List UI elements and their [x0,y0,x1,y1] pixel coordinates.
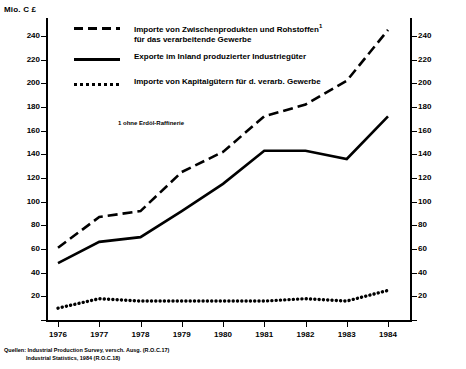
y-axis-label-right-80: 80 [418,221,444,229]
y-axis-label-left-20: 20 [14,292,40,300]
y-axis-tick-right-240 [412,36,417,37]
chart-figure: Mio. C £ 2020404060608080100100120120140… [0,0,466,369]
source-line-2: Industrial Statistics, 1984 (R.O.C.18) [4,354,169,362]
x-axis-label-1983: 1983 [327,330,367,339]
legend-label-imports-intermediate-line2: für das verarbeitende Gewerbe [134,35,251,44]
y-axis-tick-right-200 [412,83,417,84]
x-axis-label-1976: 1976 [38,330,78,339]
y-axis-label-right-60: 60 [418,245,444,253]
y-axis-tick-right-0 [412,320,417,321]
y-axis-tick-right-100 [412,202,417,203]
legend-swatch-dashed-icon [74,22,120,34]
x-axis-label-1977: 1977 [79,330,119,339]
y-axis-label-left-40: 40 [14,269,40,277]
y-axis-unit-caption: Mio. C £ [4,5,36,14]
y-axis-label-right-140: 140 [418,150,444,158]
legend-swatch-solid-icon [74,53,120,65]
y-axis-label-right-160: 160 [418,127,444,135]
chart-footnote: 1 ohne Erdöl-Raffinerie [118,120,184,126]
y-axis-label-left-240: 240 [14,32,40,40]
y-axis-label-right-100: 100 [418,198,444,206]
y-axis-tick-right-220 [412,60,417,61]
y-axis-label-left-140: 140 [14,150,40,158]
source-line-1: Quellen: Industrial Production Survey, v… [4,346,169,354]
y-axis-label-left-120: 120 [14,174,40,182]
legend-label-exports-domestic: Exporte im Inland produzierter Industrie… [134,52,306,62]
x-axis-label-1979: 1979 [162,330,202,339]
legend-footnote-marker: 1 [319,23,322,29]
legend-label-imports-intermediate-line1: Importe von Zwischenprodukten und Rohsto… [134,25,319,34]
series-line-dotted [58,290,388,308]
y-axis-label-left-200: 200 [14,79,40,87]
source-note: Quellen: Industrial Production Survey, v… [4,346,169,362]
y-axis-tick-right-120 [412,178,417,179]
legend-label-imports-capital: Importe von Kapitalgütern für d. verarb.… [134,77,321,87]
x-axis-label-1981: 1981 [244,330,284,339]
y-axis-label-right-180: 180 [418,103,444,111]
y-axis-label-right-20: 20 [418,292,444,300]
y-axis-label-right-200: 200 [418,79,444,87]
y-axis-tick-right-80 [412,225,417,226]
y-axis-label-right-40: 40 [418,269,444,277]
y-axis-label-left-60: 60 [14,245,40,253]
y-axis-label-right-120: 120 [418,174,444,182]
y-axis-tick-right-40 [412,273,417,274]
y-axis-tick-right-60 [412,249,417,250]
y-axis-label-left-160: 160 [14,127,40,135]
x-axis-label-1978: 1978 [121,330,161,339]
x-axis-label-1980: 1980 [203,330,243,339]
y-axis-label-right-220: 220 [418,56,444,64]
y-axis-label-left-220: 220 [14,56,40,64]
y-axis-label-left-180: 180 [14,103,40,111]
y-axis-label-left-100: 100 [14,198,40,206]
x-axis-label-1982: 1982 [286,330,326,339]
y-axis-tick-right-180 [412,107,417,108]
x-axis-label-1984: 1984 [368,330,408,339]
y-axis-label-left-80: 80 [14,221,40,229]
legend-swatch-dotted-icon [74,78,120,90]
y-axis-tick-right-160 [412,131,417,132]
series-line-solid [58,116,388,263]
y-axis-tick-right-20 [412,296,417,297]
y-axis-tick-right-140 [412,154,417,155]
y-axis-label-right-240: 240 [418,32,444,40]
